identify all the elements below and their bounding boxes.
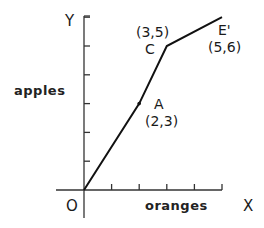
y-axis-label: apples [14,84,65,97]
point-c-coords: (3,5) [136,25,169,39]
point-e-name: E' [218,23,231,37]
point-a-name: A [154,97,164,111]
point-c-name: C [145,42,155,56]
point-a-marker [137,102,141,106]
y-axis-letter: Y [65,14,74,29]
x-axis-letter: X [243,199,253,214]
y-ticks [84,17,90,161]
point-a-coords: (2,3) [145,114,178,128]
origin-label: O [66,199,78,214]
x-axis-label: oranges [145,199,208,212]
x-ticks [112,184,222,190]
point-e-coords: (5,6) [208,40,241,54]
